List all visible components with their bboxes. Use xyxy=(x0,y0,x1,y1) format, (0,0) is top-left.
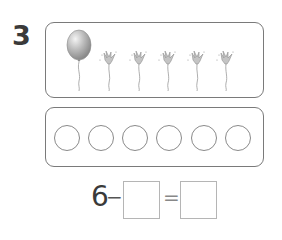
popped-balloon-icon xyxy=(186,47,208,91)
count-circle[interactable] xyxy=(156,125,182,151)
count-circle[interactable] xyxy=(225,125,251,151)
balloon-icon xyxy=(64,29,94,91)
popped-balloon-icon xyxy=(157,47,179,91)
subtrahend-answer-box[interactable] xyxy=(123,181,160,219)
equals-sign: = xyxy=(163,186,180,208)
problem-number: 3 xyxy=(12,20,31,51)
popped-balloon-icon xyxy=(215,47,237,91)
count-circle[interactable] xyxy=(191,125,217,151)
count-circle[interactable] xyxy=(54,125,80,151)
popped-balloon-icon xyxy=(98,47,120,91)
count-circle[interactable] xyxy=(122,125,148,151)
circles-box xyxy=(45,107,264,167)
popped-balloon-icon xyxy=(128,47,150,91)
picture-box xyxy=(45,22,264,98)
minus-sign: − xyxy=(106,186,123,208)
count-circle[interactable] xyxy=(88,125,114,151)
result-answer-box[interactable] xyxy=(180,181,217,219)
